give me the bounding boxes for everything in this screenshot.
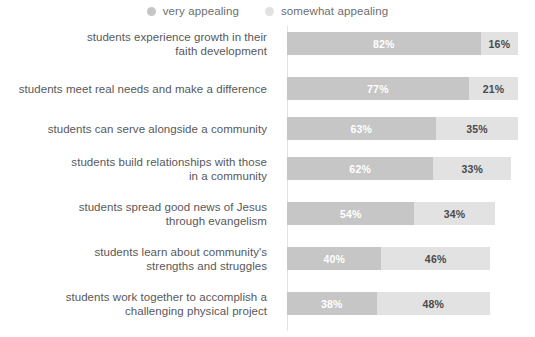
bar-segment-somewhat-appealing[interactable]: 46% <box>381 247 490 270</box>
bar-segment-very-appealing[interactable]: 62% <box>287 157 433 180</box>
bar-value-very-appealing: 38% <box>321 298 343 310</box>
chart-row: students spread good news of Jesus throu… <box>0 202 535 225</box>
bar-value-somewhat-appealing: 21% <box>483 83 505 95</box>
legend-label-very-appealing: very appealing <box>163 5 239 17</box>
category-label: students build relationships with those … <box>0 155 277 183</box>
bar-track: 82%16% <box>287 32 518 55</box>
bar-track: 63%35% <box>287 117 518 140</box>
bar-segment-very-appealing[interactable]: 54% <box>287 202 414 225</box>
bar-track: 54%34% <box>287 202 495 225</box>
bar-value-somewhat-appealing: 33% <box>461 163 483 175</box>
bar-track: 40%46% <box>287 247 490 270</box>
bar-value-somewhat-appealing: 48% <box>422 298 444 310</box>
stacked-bar-chart: very appealing somewhat appealing studen… <box>0 0 535 337</box>
chart-row: students experience growth in their fait… <box>0 32 535 55</box>
bar-value-very-appealing: 54% <box>340 208 362 220</box>
bar-value-somewhat-appealing: 46% <box>425 253 447 265</box>
bar-value-very-appealing: 63% <box>351 123 373 135</box>
chart-row: students meet real needs and make a diff… <box>0 77 535 100</box>
legend-item-somewhat-appealing[interactable]: somewhat appealing <box>265 5 388 17</box>
bar-value-somewhat-appealing: 34% <box>444 208 466 220</box>
chart-row: students work together to accomplish a c… <box>0 292 535 315</box>
bar-track: 38%48% <box>287 292 490 315</box>
legend-item-very-appealing[interactable]: very appealing <box>147 5 239 17</box>
bar-segment-somewhat-appealing[interactable]: 48% <box>377 292 490 315</box>
bar-segment-very-appealing[interactable]: 82% <box>287 32 481 55</box>
chart-row: students learn about community's strengt… <box>0 247 535 270</box>
bar-segment-very-appealing[interactable]: 63% <box>287 117 436 140</box>
bar-segment-somewhat-appealing[interactable]: 35% <box>436 117 519 140</box>
legend-label-somewhat-appealing: somewhat appealing <box>281 5 388 17</box>
category-label: students meet real needs and make a diff… <box>0 82 277 96</box>
bar-track: 77%21% <box>287 77 518 100</box>
bar-segment-somewhat-appealing[interactable]: 33% <box>433 157 511 180</box>
bar-value-somewhat-appealing: 16% <box>489 38 511 50</box>
category-label: students learn about community's strengt… <box>0 245 277 273</box>
bar-segment-very-appealing[interactable]: 38% <box>287 292 377 315</box>
bar-segment-somewhat-appealing[interactable]: 16% <box>481 32 519 55</box>
bar-value-very-appealing: 77% <box>367 83 389 95</box>
bar-value-very-appealing: 82% <box>373 38 395 50</box>
bar-value-very-appealing: 40% <box>323 253 345 265</box>
chart-row: students build relationships with those … <box>0 157 535 180</box>
circle-marker-icon <box>147 7 156 16</box>
bar-value-very-appealing: 62% <box>349 163 371 175</box>
bar-value-somewhat-appealing: 35% <box>466 123 488 135</box>
bar-track: 62%33% <box>287 157 511 180</box>
bar-segment-very-appealing[interactable]: 77% <box>287 77 469 100</box>
bar-segment-very-appealing[interactable]: 40% <box>287 247 381 270</box>
bar-segment-somewhat-appealing[interactable]: 21% <box>469 77 519 100</box>
category-label: students experience growth in their fait… <box>0 30 277 58</box>
bar-segment-somewhat-appealing[interactable]: 34% <box>414 202 494 225</box>
circle-marker-icon <box>265 7 274 16</box>
category-label: students can serve alongside a community <box>0 122 277 136</box>
category-label: students work together to accomplish a c… <box>0 290 277 318</box>
plot-area: students experience growth in their fait… <box>0 24 535 337</box>
chart-row: students can serve alongside a community… <box>0 117 535 140</box>
category-label: students spread good news of Jesus throu… <box>0 200 277 228</box>
chart-legend: very appealing somewhat appealing <box>0 0 535 22</box>
